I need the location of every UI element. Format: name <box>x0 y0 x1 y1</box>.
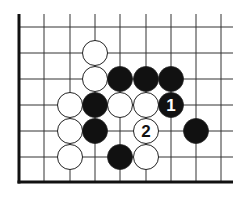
stone-circle-icon <box>108 67 133 92</box>
white-stone <box>83 67 108 92</box>
black-stone <box>83 119 108 144</box>
move-number-label: 1 <box>166 96 175 115</box>
move-number-label: 2 <box>141 122 150 141</box>
white-stone <box>108 93 133 118</box>
go-board-diagram: 21 <box>0 0 251 202</box>
black-stone <box>184 119 209 144</box>
black-stone <box>108 67 133 92</box>
stone-circle-icon <box>108 93 133 118</box>
stone-circle-icon <box>58 119 83 144</box>
black-stone: 1 <box>159 93 184 118</box>
stone-circle-icon <box>134 145 159 170</box>
white-stone <box>58 93 83 118</box>
white-stone <box>58 119 83 144</box>
black-stone <box>134 67 159 92</box>
stone-circle-icon <box>58 93 83 118</box>
white-stone <box>58 145 83 170</box>
stone-circle-icon <box>83 67 108 92</box>
stone-circle-icon <box>134 93 159 118</box>
black-stone <box>83 93 108 118</box>
white-stone <box>134 145 159 170</box>
black-stone <box>108 145 133 170</box>
stone-circle-icon <box>83 119 108 144</box>
stone-circle-icon <box>108 145 133 170</box>
white-stone <box>134 93 159 118</box>
white-stone <box>83 41 108 66</box>
stone-circle-icon <box>159 67 184 92</box>
stone-circle-icon <box>58 145 83 170</box>
black-stone <box>159 67 184 92</box>
stone-circle-icon <box>184 119 209 144</box>
white-stone: 2 <box>134 119 159 144</box>
stone-circle-icon <box>83 41 108 66</box>
stone-circle-icon <box>83 93 108 118</box>
stone-circle-icon <box>134 67 159 92</box>
